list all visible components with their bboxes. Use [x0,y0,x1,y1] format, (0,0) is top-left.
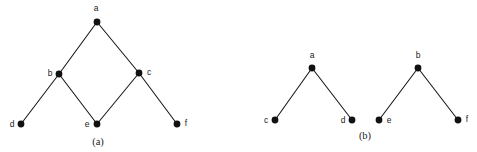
vertex-label-a: a [310,50,315,60]
figure-root: abcdef(a)abcdef(b) [0,0,477,152]
graph-vertex-a [309,65,316,72]
vertex-label-e: e [85,119,90,129]
graph-vertex-e [94,121,101,128]
graph-vertex-a [94,19,101,26]
vertex-label-a: a [94,3,99,13]
vertex-label-d: d [10,119,15,129]
graph-edge-b-e [59,74,97,124]
vertex-group: abcdef [264,50,469,125]
graph-vertex-c [136,70,143,77]
graph-figure-canvas: abcdef(a)abcdef(b) [0,0,477,152]
vertex-label-c: c [264,115,269,125]
graph-vertex-c [272,117,279,124]
edge-group [275,68,458,120]
graph-vertex-e [376,117,383,124]
vertex-label-d: d [341,115,346,125]
graph-edge-a-c [275,68,312,120]
graph-edge-c-e [97,73,139,124]
vertex-label-b: b [416,50,421,60]
graph-vertex-b [415,65,422,72]
panel-caption-panel-a: (a) [92,136,104,148]
graph-edge-a-d [312,68,352,120]
graph-edge-b-f [418,68,458,120]
edge-group [21,22,177,124]
vertex-label-b: b [48,68,53,78]
graph-vertex-d [349,117,356,124]
vertex-label-f: f [185,118,188,128]
graph-vertex-f [455,117,462,124]
vertex-group: abcdef [10,3,188,129]
vertex-label-f: f [466,114,469,124]
graph-edge-b-d [21,74,59,124]
panel-b: abcdef(b) [264,50,469,142]
graph-edge-c-f [139,73,177,124]
graph-vertex-b [56,71,63,78]
graph-edge-a-c [97,22,139,73]
graph-edge-b-e [379,68,418,120]
vertex-label-e: e [387,115,392,125]
graph-vertex-d [18,121,25,128]
panel-a: abcdef(a) [10,3,188,148]
panel-caption-panel-b: (b) [359,130,372,142]
graph-edge-a-b [59,22,97,74]
vertex-label-c: c [147,67,152,77]
graph-vertex-f [174,121,181,128]
